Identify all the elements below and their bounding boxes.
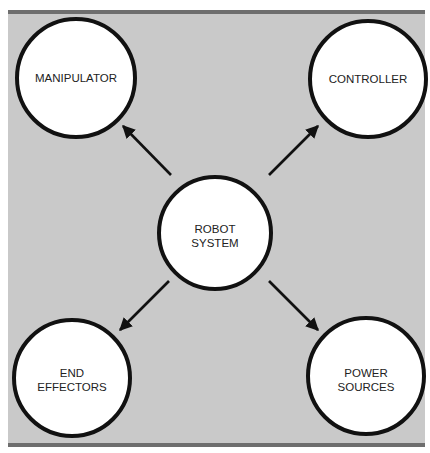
- power-sources-label: POWER SOURCES: [338, 366, 395, 394]
- robot-system-label: ROBOT SYSTEM: [191, 222, 238, 250]
- controller-label-line: CONTROLLER: [329, 72, 408, 86]
- arrow-to-end-effectors: [120, 281, 169, 330]
- robot-system-label-line-1: ROBOT: [191, 222, 238, 236]
- end-effectors-label: END EFFECTORS: [37, 366, 106, 394]
- end-effectors-label-line-1: END: [37, 366, 106, 380]
- arrow-to-manipulator: [123, 126, 171, 175]
- manipulator-label-line: MANIPULATOR: [35, 71, 117, 85]
- power-sources-label-line-2: SOURCES: [338, 380, 395, 394]
- power-sources-label-line-1: POWER: [338, 366, 395, 380]
- end-effectors-label-line-2: EFFECTORS: [37, 380, 106, 394]
- robot-system-label-line-2: SYSTEM: [191, 236, 238, 250]
- arrow-to-power-sources: [269, 281, 318, 330]
- manipulator-label: MANIPULATOR: [35, 71, 117, 85]
- controller-label: CONTROLLER: [329, 72, 408, 86]
- arrow-to-controller: [269, 126, 318, 175]
